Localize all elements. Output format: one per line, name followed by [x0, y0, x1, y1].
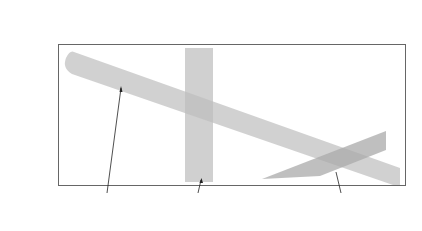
sample-space-diagram	[0, 0, 422, 231]
sum11-arrow	[336, 172, 341, 193]
match-band	[65, 52, 400, 185]
event-bands	[0, 0, 422, 231]
match-arrow	[107, 88, 121, 193]
